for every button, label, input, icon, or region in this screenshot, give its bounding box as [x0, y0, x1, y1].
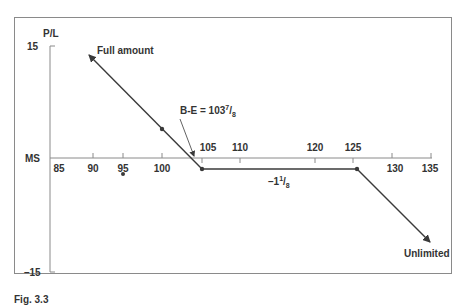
figure-caption: Fig. 3.3 [14, 294, 48, 305]
data-point-95 [121, 172, 125, 176]
x-tick-100: 100 [154, 163, 171, 174]
x-tick-85: 85 [53, 163, 65, 174]
y-tick-label-top: 15 [27, 41, 39, 52]
payoff-line [89, 55, 430, 242]
data-point-100 [160, 127, 164, 131]
data-point-105 [200, 167, 204, 171]
annotations: Full amount B-E = 1037/8 –11/8 Unlimited [97, 45, 450, 259]
x-tick-130: 130 [387, 163, 404, 174]
x-tick-120: 120 [307, 142, 324, 153]
annotation-break-even: B-E = 1037/8 [180, 104, 236, 118]
annotation-flat-loss: –11/8 [268, 175, 290, 189]
y-tick-label-bottom: –15 [24, 267, 41, 278]
annotation-full-amount: Full amount [97, 45, 154, 56]
break-even-pointer [180, 119, 194, 156]
y-axis-label: P/L [43, 28, 59, 39]
x-tick-135: 135 [422, 163, 439, 174]
x-tick-110: 110 [232, 142, 249, 153]
x-tick-125: 125 [345, 142, 362, 153]
x-tick-90: 90 [87, 163, 99, 174]
data-point-125 [355, 167, 359, 171]
annotation-unlimited: Unlimited [404, 248, 450, 259]
x-tick-105: 105 [200, 142, 217, 153]
x-axis-label: MS [25, 153, 40, 164]
